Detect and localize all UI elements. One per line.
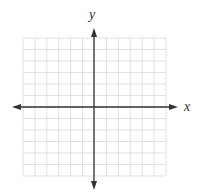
- x-axis-right-arrow-icon: [169, 104, 178, 110]
- y-axis-label: y: [87, 7, 96, 22]
- coordinate-plane: x y: [0, 0, 198, 195]
- x-axis-left-arrow-icon: [12, 104, 21, 110]
- y-axis-up-arrow-icon: [91, 28, 97, 37]
- x-axis-label: x: [183, 99, 191, 114]
- y-axis-down-arrow-icon: [91, 181, 97, 190]
- axes: [12, 28, 178, 190]
